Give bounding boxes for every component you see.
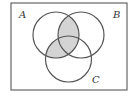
label-a: A: [18, 9, 26, 20]
venn-diagram: A B C: [0, 0, 133, 99]
label-c: C: [92, 74, 100, 85]
label-b: B: [112, 9, 120, 20]
